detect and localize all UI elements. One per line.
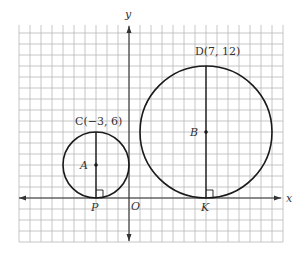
- center-point-B: [204, 130, 208, 134]
- point-label-P: P: [90, 201, 99, 214]
- y-axis-down-arrow-icon: [127, 234, 132, 241]
- coordinate-diagram: x y O A C(−3, 6) P B D(7, 12) K: [0, 0, 302, 255]
- point-label-K: K: [200, 201, 210, 214]
- center-label-B: B: [189, 126, 198, 139]
- x-axis-label: x: [286, 192, 293, 205]
- y-axis-label: y: [124, 8, 132, 21]
- x-axis: [19, 196, 281, 201]
- point-label-D: D(7, 12): [195, 45, 240, 58]
- origin-label: O: [131, 200, 140, 213]
- y-axis-up-arrow-icon: [127, 26, 132, 33]
- circle-B: B D(7, 12) K: [140, 45, 272, 214]
- right-angle-marker-K: [206, 190, 213, 198]
- x-axis-right-arrow-icon: [274, 196, 281, 201]
- center-point-A: [94, 163, 98, 167]
- grid: [19, 25, 283, 242]
- center-label-A: A: [79, 159, 88, 172]
- x-axis-left-arrow-icon: [19, 196, 26, 201]
- point-label-C: C(−3, 6): [75, 115, 122, 128]
